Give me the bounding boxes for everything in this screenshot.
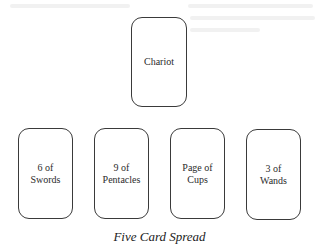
card-6-of-swords: 6 of Swords	[18, 128, 73, 219]
card-3-of-wands: 3 of Wands	[246, 129, 301, 220]
diagram-caption: Five Card Spread	[0, 229, 319, 245]
card-chariot: Chariot	[131, 17, 187, 107]
card-label: Page of Cups	[182, 162, 212, 186]
bleed-through-line	[10, 4, 130, 8]
card-label: 3 of Wands	[260, 163, 287, 187]
card-9-of-pentacles: 9 of Pentacles	[94, 128, 149, 219]
card-label: 6 of Swords	[30, 162, 60, 186]
card-page-of-cups: Page of Cups	[170, 128, 225, 219]
bleed-through-line	[190, 16, 315, 20]
bleed-through-line	[188, 4, 313, 8]
bleed-through-line	[190, 28, 260, 32]
card-label: 9 of Pentacles	[103, 162, 141, 186]
card-label: Chariot	[144, 56, 174, 68]
